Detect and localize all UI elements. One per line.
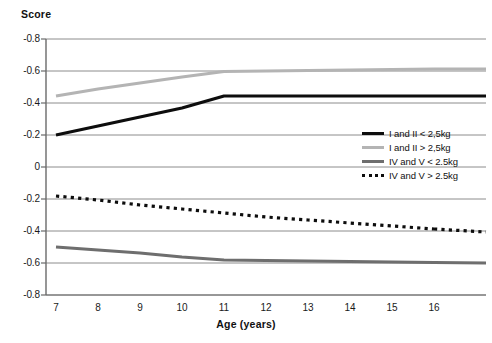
chart-legend: I and II < 2,5kg I and II > 2,5kg IV and…: [362, 126, 490, 182]
legend-dotted-line-icon: [362, 168, 384, 182]
x-tick-label: 10: [167, 302, 197, 313]
legend-item: IV and V < 2.5kg: [362, 154, 490, 168]
legend-item-label: I and II < 2,5kg: [389, 128, 451, 139]
x-tick-label: 15: [377, 302, 407, 313]
legend-item-label: IV and V > 2.5kg: [389, 170, 458, 181]
x-tick-label: 7: [41, 302, 71, 313]
x-tick-label: 12: [251, 302, 281, 313]
y-tick-label: -0.6: [4, 65, 40, 76]
legend-line-icon: [362, 140, 384, 154]
chart-container: Score: [0, 0, 492, 343]
y-axis-ticks: [41, 39, 46, 295]
y-tick-label: 0: [4, 161, 40, 172]
legend-item: I and II > 2,5kg: [362, 140, 490, 154]
legend-item: I and II < 2,5kg: [362, 126, 490, 140]
legend-item-label: IV and V < 2.5kg: [389, 156, 458, 167]
y-tick-label: -0.2: [4, 129, 40, 140]
y-tick-label: -0.8: [4, 289, 40, 300]
x-tick-label: 16: [419, 302, 449, 313]
y-tick-label: -0.6: [4, 257, 40, 268]
x-tick-label: 9: [125, 302, 155, 313]
y-tick-label: -0.4: [4, 225, 40, 236]
x-tick-label: 14: [335, 302, 365, 313]
series-iv-v-lt: [56, 247, 486, 263]
legend-item: IV and V > 2.5kg: [362, 168, 490, 182]
y-tick-label: -0.8: [4, 33, 40, 44]
y-tick-label: -0.2: [4, 193, 40, 204]
series-iv-v-gt: [56, 196, 486, 232]
legend-item-label: I and II > 2,5kg: [389, 142, 451, 153]
x-tick-label: 8: [83, 302, 113, 313]
legend-line-icon: [362, 154, 384, 168]
x-axis-title: Age (years): [0, 318, 492, 330]
legend-line-icon: [362, 126, 384, 140]
series-i-ii-gt: [56, 69, 486, 96]
y-tick-label: -0.4: [4, 97, 40, 108]
x-tick-label: 13: [293, 302, 323, 313]
x-tick-label: 11: [209, 302, 239, 313]
